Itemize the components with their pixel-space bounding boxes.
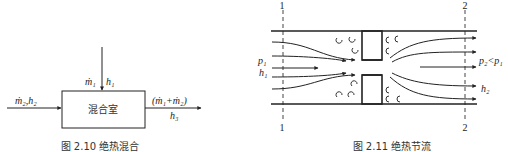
- top-inlet-enthalpy-label: h₁: [106, 76, 114, 87]
- figure-caption-2-11: 图 2.11 绝热节流: [353, 140, 432, 152]
- eddies: [336, 36, 400, 102]
- outlet-enthalpy-label: h₃: [170, 110, 179, 121]
- mixing-chamber-label: 混合室: [88, 103, 118, 115]
- section-2-bottom-label: 2: [463, 122, 468, 133]
- section-1-top-label: 1: [280, 0, 285, 11]
- inlet-enthalpy-label: h₁: [259, 67, 267, 78]
- diagram-canvas: 混合室 ṁ₁ h₁ ṁ₂,h₂ (ṁ₁+ṁ₂) h₃ 图 2.10 绝热混合 1…: [0, 0, 508, 152]
- outlet-enthalpy-label: h₂: [481, 83, 490, 94]
- section-2-top-label: 2: [463, 0, 468, 11]
- outlet-pressure-label: p₂<p₁: [478, 55, 503, 66]
- throttle-plate-top: [362, 31, 382, 60]
- throttling-figure: 1 1 2 2: [257, 0, 503, 152]
- inlet-pressure-label: p₁: [257, 55, 266, 66]
- inlet-streamlines: [272, 42, 355, 89]
- outlet-streamlines: [390, 38, 476, 99]
- figure-caption-2-10: 图 2.10 绝热混合: [61, 140, 140, 152]
- outlet-mass-label: (ṁ₁+ṁ₂): [152, 95, 187, 107]
- top-inlet-mass-label: ṁ₁: [85, 76, 96, 87]
- section-1-bottom-label: 1: [280, 122, 285, 133]
- mixing-figure: 混合室 ṁ₁ h₁ ṁ₂,h₂ (ṁ₁+ṁ₂) h₃ 图 2.10 绝热混合: [7, 47, 201, 152]
- throttle-plate-bottom: [362, 75, 382, 104]
- left-inlet-label: ṁ₂,h₂: [15, 95, 37, 106]
